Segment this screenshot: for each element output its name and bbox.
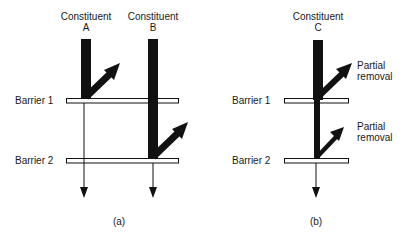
constituent-c-removal-arrow-1	[319, 63, 352, 96]
arrowhead-down-icon	[312, 187, 320, 198]
constituent-c-label: Constituent C	[288, 11, 348, 33]
label-line: removal	[357, 132, 393, 143]
arrowhead-down-icon	[149, 187, 157, 198]
label-line: removal	[357, 71, 393, 82]
label-line: Constituent	[123, 11, 183, 22]
partial-removal-label-1: Partial removal	[357, 60, 393, 82]
panel-b	[285, 40, 353, 198]
barrier-1-label-b: Barrier 1	[232, 95, 270, 106]
arrowhead-down-icon	[80, 187, 88, 198]
barrier-2-label-b: Barrier 2	[232, 155, 270, 166]
label-line: C	[288, 22, 348, 33]
panel-a-caption: (a)	[104, 216, 134, 227]
label-line: B	[123, 22, 183, 33]
constituent-c-flow-bar-lower	[314, 100, 320, 159]
label-line: Partial	[357, 60, 393, 71]
panel-a	[67, 39, 189, 198]
label-line: Constituent	[56, 11, 116, 22]
barrier-2-a	[67, 159, 179, 164]
constituent-b-label: Constituent B	[123, 11, 183, 33]
barrier-2-label-a: Barrier 2	[15, 155, 53, 166]
barrier-2-b	[285, 159, 349, 164]
label-line: Constituent	[288, 11, 348, 22]
constituent-b-removal-arrow	[153, 122, 188, 157]
label-line: Partial	[357, 121, 393, 132]
diagram-canvas	[0, 0, 409, 233]
panel-b-caption: (b)	[301, 216, 331, 227]
constituent-c-removal-arrow-2	[317, 127, 344, 157]
constituent-a-label: Constituent A	[56, 11, 116, 33]
barrier-1-label-a: Barrier 1	[15, 95, 53, 106]
label-line: A	[56, 22, 116, 33]
barrier-1-a	[67, 99, 179, 104]
constituent-a-removal-arrow	[86, 63, 120, 97]
partial-removal-label-2: Partial removal	[357, 121, 393, 143]
